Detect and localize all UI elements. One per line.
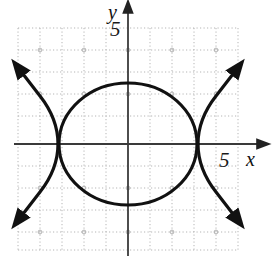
x-axis-label: x [246,149,255,169]
graph-figure: y x 5 5 [0,0,279,260]
plot-canvas [0,0,279,260]
y-tick-label-5: 5 [110,19,121,40]
x-tick-label-5: 5 [219,150,230,171]
coordinate-axes [14,12,258,256]
